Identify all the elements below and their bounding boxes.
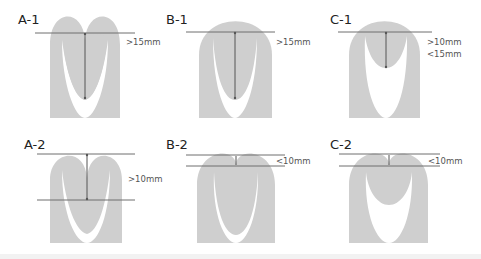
panel-label-b1: B-1 [166, 12, 188, 27]
shape-a2-outer [50, 156, 122, 243]
panel-a2: A-2 >10mm [24, 137, 163, 243]
diagram-canvas: A-1 >15mm B-1 >15mm C-1 >10mm <15mm A-2 [0, 0, 481, 259]
panel-label-a1: A-1 [18, 12, 40, 27]
panel-c2: C-2 <10mm [330, 137, 463, 243]
panel-label-b2: B-2 [166, 137, 188, 152]
panel-label-c1: C-1 [330, 12, 352, 27]
measure-label-b1: >15mm [276, 37, 311, 47]
footer-band [0, 254, 481, 259]
panel-c1: C-1 >10mm <15mm [330, 12, 462, 118]
measure-label-a2: >10mm [128, 174, 163, 184]
measure-label-c1-line1: >10mm [427, 37, 462, 47]
panel-b1: B-1 >15mm [166, 12, 311, 118]
panel-label-c2: C-2 [330, 137, 352, 152]
measure-label-a1: >15mm [126, 37, 161, 47]
panel-label-a2: A-2 [24, 137, 46, 152]
shape-b2-outer [197, 154, 275, 243]
measure-label-c2: <10mm [428, 156, 463, 166]
panel-a1: A-1 >15mm [18, 12, 161, 118]
panel-b2: B-2 <10mm [166, 137, 311, 243]
measure-label-b2: <10mm [276, 156, 311, 166]
measure-label-c1-line2: <15mm [427, 49, 462, 59]
